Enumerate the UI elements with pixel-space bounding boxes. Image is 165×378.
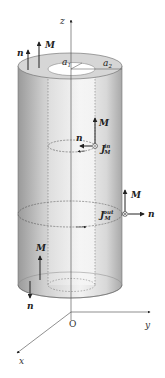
m-label-top: M: [44, 40, 56, 50]
z-axis-label: z: [59, 16, 65, 26]
n-label-bottom: n: [27, 301, 34, 311]
m-label-inner: M: [98, 118, 110, 128]
j-in-label: JinM: [99, 143, 111, 155]
y-axis-label: y: [144, 320, 151, 330]
cylinder-diagram: a1 a2 z y x O n M M n JinM: [0, 0, 165, 378]
x-axis-label: x: [19, 356, 24, 366]
n-label-outer: n: [148, 209, 155, 219]
cylinder-body: [18, 66, 122, 298]
n-label-inner: n: [76, 133, 83, 143]
n-label-top: n: [17, 48, 24, 58]
y-axis: y: [71, 312, 151, 330]
origin-label: O: [69, 319, 76, 329]
m-label-outer: M: [130, 190, 142, 200]
m-label-bottom: M: [35, 243, 47, 253]
x-axis: x: [17, 312, 71, 366]
